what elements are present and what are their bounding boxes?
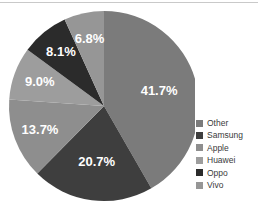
legend-item-oppo[interactable]: Oppo [196, 167, 256, 179]
chart-legend: OtherSamsungAppleHuaweiOppoVivo [196, 117, 256, 191]
pie-data-label-oppo: 8.1% [46, 44, 76, 59]
pie-data-label-other: 41.7% [141, 83, 178, 98]
legend-swatch-icon [196, 182, 203, 189]
legend-swatch-icon [196, 157, 203, 164]
pie-data-label-samsung: 20.7% [78, 154, 115, 169]
legend-swatch-icon [196, 144, 203, 151]
legend-item-label: Vivo [207, 181, 223, 190]
legend-item-samsung[interactable]: Samsung [196, 129, 256, 141]
legend-item-vivo[interactable]: Vivo [196, 179, 256, 191]
legend-item-other[interactable]: Other [196, 117, 256, 129]
pie-data-label-huawei: 9.0% [25, 74, 55, 89]
pie-chart-figure: 41.7%20.7%13.7%9.0%8.1%6.8% OtherSamsung… [0, 0, 258, 210]
legend-item-apple[interactable]: Apple [196, 142, 256, 154]
legend-item-label: Huawei [207, 156, 235, 165]
legend-item-label: Samsung [207, 131, 243, 140]
legend-item-label: Oppo [207, 169, 228, 178]
pie-data-label-apple: 13.7% [22, 122, 59, 137]
legend-swatch-icon [196, 169, 203, 176]
legend-item-label: Apple [207, 144, 229, 153]
legend-swatch-icon [196, 132, 203, 139]
pie-data-label-vivo: 6.8% [75, 31, 105, 46]
legend-swatch-icon [196, 120, 203, 127]
pie-chart-svg: 41.7%20.7%13.7%9.0%8.1%6.8% [0, 0, 195, 210]
legend-item-huawei[interactable]: Huawei [196, 154, 256, 166]
legend-item-label: Other [207, 119, 228, 128]
chart-plot-area: 41.7%20.7%13.7%9.0%8.1%6.8% [0, 0, 195, 210]
